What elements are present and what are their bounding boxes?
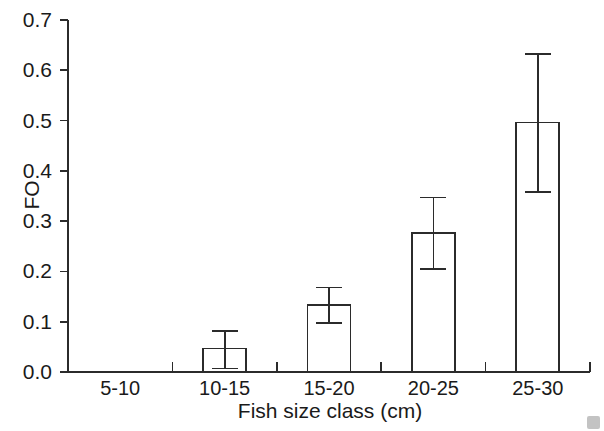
- error-bars: [212, 54, 551, 368]
- x-axis-title: Fish size class (cm): [238, 399, 422, 423]
- scan-artifact: [587, 416, 600, 429]
- y-tick-label: 0.3: [0, 209, 52, 233]
- y-tick-label: 0.6: [0, 58, 52, 82]
- plot-area: [0, 0, 604, 431]
- x-tick-label: 10-15: [199, 377, 250, 400]
- x-tick-label: 15-20: [303, 377, 354, 400]
- y-tick-label: 0.4: [0, 159, 52, 183]
- y-tick-label: 0.1: [0, 310, 52, 334]
- y-tick-label: 0.0: [0, 360, 52, 384]
- x-tick-label: 5-10: [100, 377, 140, 400]
- y-tick-label: 0.7: [0, 8, 52, 32]
- x-tick-label: 25-30: [512, 377, 563, 400]
- bar-chart-figure: FO Fish size class (cm) 0.00.10.20.30.40…: [0, 0, 604, 431]
- bar-series: [203, 123, 559, 372]
- y-tick-marks: [60, 20, 68, 372]
- y-tick-label: 0.5: [0, 109, 52, 133]
- y-tick-label: 0.2: [0, 259, 52, 283]
- x-tick-label: 20-25: [408, 377, 459, 400]
